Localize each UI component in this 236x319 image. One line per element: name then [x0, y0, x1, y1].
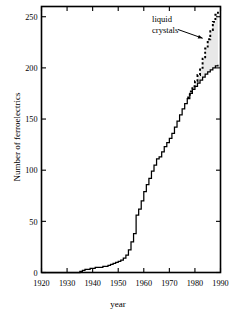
annotation-liquid-crystals: liquid crystals — [152, 14, 179, 35]
axis-ticks — [42, 7, 221, 273]
annotation-liquid-crystals-line2: crystals — [152, 25, 179, 35]
x-tick-labels: 19201930194019501960197019801990 — [33, 279, 228, 288]
figure-ferroelectrics-chart: 19201930194019501960197019801990 0501001… — [0, 0, 236, 319]
x-tick-label: 1950 — [110, 279, 126, 288]
x-tick-label: 1960 — [136, 279, 152, 288]
x-tick-label: 1970 — [161, 279, 177, 288]
plot-frame — [42, 7, 221, 273]
x-tick-label: 1930 — [59, 279, 75, 288]
x-axis-title: year — [0, 299, 236, 309]
y-tick-label: 100 — [25, 166, 37, 175]
y-tick-label: 250 — [25, 13, 37, 22]
y-tick-label: 50 — [29, 218, 37, 227]
y-axis-title: Number of ferroelectrics — [12, 67, 22, 207]
annotation-arrow — [178, 30, 203, 39]
chart-canvas: 19201930194019501960197019801990 0501001… — [0, 0, 236, 319]
y-tick-labels: 050100150200250 — [25, 13, 37, 278]
y-tick-label: 200 — [25, 64, 37, 73]
x-tick-label: 1980 — [187, 279, 203, 288]
annotation-liquid-crystals-line1: liquid — [152, 14, 173, 24]
y-tick-label: 150 — [25, 115, 37, 124]
x-tick-label: 1990 — [212, 279, 228, 288]
y-tick-label: 0 — [33, 269, 37, 278]
x-tick-label: 1940 — [84, 279, 100, 288]
x-tick-label: 1920 — [33, 279, 49, 288]
series-ferroelectrics-line — [42, 65, 218, 273]
